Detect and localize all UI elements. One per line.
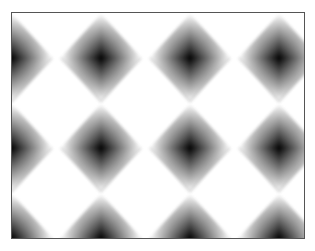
- diamond-gradient: [11, 194, 52, 239]
- diamond-gradient: [11, 14, 52, 102]
- diamond-shape: [11, 104, 52, 192]
- pattern-frame: [11, 12, 305, 239]
- diamond-gradient: [11, 104, 52, 192]
- diamond-gradient: [150, 104, 231, 192]
- diamond-shape: [150, 14, 231, 102]
- diamond-shape: [61, 194, 142, 239]
- diamond-shape: [61, 104, 142, 192]
- diamond-shape: [61, 14, 142, 102]
- diamond-shape: [150, 104, 231, 192]
- diamond-gradient: [150, 14, 231, 102]
- diamond-gradient: [239, 104, 305, 192]
- diamond-gradient: [150, 194, 231, 239]
- diamond-shape: [239, 104, 305, 192]
- diamond-shape: [239, 194, 305, 239]
- diamond-shape: [11, 14, 52, 102]
- diamond-gradient: [239, 14, 305, 102]
- diamond-shape: [11, 194, 52, 239]
- diamond-gradient: [61, 14, 142, 102]
- diamond-gradient: [61, 104, 142, 192]
- diamond-gradient: [239, 194, 305, 239]
- diamond-shape: [239, 14, 305, 102]
- diamond-shape: [150, 194, 231, 239]
- diamond-gradient: [61, 194, 142, 239]
